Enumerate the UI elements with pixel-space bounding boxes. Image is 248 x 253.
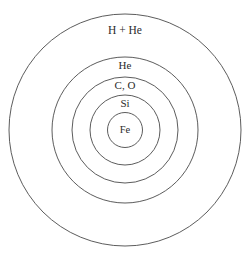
shell-label-c-o: C, O (115, 79, 136, 91)
concentric-shell-diagram: H + He He C, O Si Fe (0, 0, 248, 253)
shell-label-he: He (119, 59, 132, 71)
shell-label-si: Si (120, 97, 129, 109)
shell-label-fe: Fe (120, 124, 131, 135)
shell-label-h-he: H + He (108, 24, 142, 36)
diagram-canvas: H + He He C, O Si Fe (0, 0, 248, 253)
